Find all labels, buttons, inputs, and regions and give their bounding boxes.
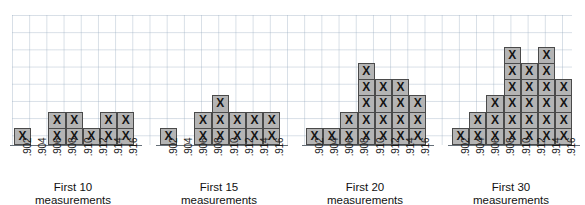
panel-caption-line1: First 15 bbox=[146, 181, 292, 194]
dotplot-panel: XXXXXXXXXX.902.904.906.908.910.912.914.9… bbox=[0, 0, 146, 205]
dotplot-mark-cell: X bbox=[212, 95, 229, 112]
dotplot-mark-cell: X bbox=[358, 112, 375, 129]
panel-caption-line2: measurements bbox=[292, 194, 438, 205]
dotplot-mark-cell: X bbox=[521, 63, 538, 80]
dotplot-mark-cell: X bbox=[194, 112, 211, 129]
dotplot-mark-cell: X bbox=[246, 112, 263, 129]
x-axis-tick-label: .916 bbox=[128, 138, 139, 157]
dotplot-mark-cell: X bbox=[229, 112, 246, 129]
panel-caption-line2: measurements bbox=[146, 194, 292, 205]
dotplot-mark-cell: X bbox=[469, 112, 486, 129]
dotplot-mark-cell: X bbox=[555, 112, 572, 129]
dotplot-column: XXXXXX bbox=[504, 48, 521, 145]
dotplot-column: XXXX bbox=[375, 80, 392, 145]
panel-caption: First 30measurements bbox=[438, 181, 584, 205]
dotplot-mark-cell: X bbox=[486, 95, 503, 112]
dotplot-mark-cell: X bbox=[100, 112, 117, 129]
dotplot-mark-cell: X bbox=[375, 112, 392, 129]
dotplot-column: XXXX bbox=[392, 80, 409, 145]
panel-caption-line1: First 10 bbox=[0, 181, 146, 194]
panel-caption: First 20measurements bbox=[292, 181, 438, 205]
x-axis-tick-label: .916 bbox=[420, 138, 431, 157]
dotplot-stack-area: XXXXXXXXXXXX bbox=[160, 23, 282, 145]
dotplot-mark-cell: X bbox=[375, 79, 392, 96]
dotplot-mark-cell: X bbox=[117, 112, 134, 129]
dotplot-mark-cell: X bbox=[504, 47, 521, 64]
panel-caption-line1: First 30 bbox=[438, 181, 584, 194]
dotplot-stack-area: XXXXXXXXXX bbox=[14, 23, 136, 145]
dotplot-panel: XXXXXXXXXXXXXXXXXXXXXXXXXXX.902.904.906.… bbox=[438, 0, 584, 205]
dotplot-mark-cell: X bbox=[409, 95, 426, 112]
panel-caption: First 10measurements bbox=[0, 181, 146, 205]
dotplot-column: XXXXX bbox=[521, 64, 538, 145]
dotplot-mark-cell: X bbox=[392, 112, 409, 129]
dotplot-mark-cell: X bbox=[392, 79, 409, 96]
dotplot-mark-cell: X bbox=[538, 63, 555, 80]
dotplot-column: XXXXXX bbox=[538, 48, 555, 145]
dotplot-column: XXXXX bbox=[358, 64, 375, 145]
dotplot-mark-cell: X bbox=[538, 112, 555, 129]
dotplot-mark-cell: X bbox=[486, 112, 503, 129]
x-axis-tick-label: .916 bbox=[274, 138, 285, 157]
dotplot-mark-cell: X bbox=[263, 112, 280, 129]
dotplot-mark-cell: X bbox=[212, 112, 229, 129]
dotplot-stack-area: XXXXXXXXXXXXXXXXXXXXXXXXXXX bbox=[452, 23, 574, 145]
dotplot-panel-group: XXXXXXXXXX.902.904.906.908.910.912.914.9… bbox=[0, 0, 585, 205]
panel-caption-line2: measurements bbox=[438, 194, 584, 205]
panel-caption-line2: measurements bbox=[0, 194, 146, 205]
dotplot-mark-cell: X bbox=[538, 79, 555, 96]
dotplot-mark-cell: X bbox=[504, 79, 521, 96]
dotplot-mark-cell: X bbox=[504, 95, 521, 112]
dotplot-panel: XXXXXXXXXXXX.902.904.906.908.910.912.914… bbox=[146, 0, 292, 205]
dotplot-column: XXXX bbox=[555, 80, 572, 145]
dotplot-mark-cell: X bbox=[409, 112, 426, 129]
dotplot-mark-cell: X bbox=[66, 112, 83, 129]
dotplot-mark-cell: X bbox=[375, 95, 392, 112]
dotplot-mark-cell: X bbox=[538, 95, 555, 112]
dotplot-mark-cell: X bbox=[504, 63, 521, 80]
dotplot-stack-area: XXXXXXXXXXXXXXXXXXXX bbox=[306, 23, 428, 145]
dotplot-mark-cell: X bbox=[48, 112, 65, 129]
dotplot-mark-cell: X bbox=[521, 79, 538, 96]
dotplot-mark-cell: X bbox=[340, 112, 357, 129]
dotplot-mark-cell: X bbox=[358, 95, 375, 112]
dotplot-mark-cell: X bbox=[538, 47, 555, 64]
dotplot-mark-cell: X bbox=[521, 95, 538, 112]
dotplot-mark-cell: X bbox=[521, 112, 538, 129]
panel-caption-line1: First 20 bbox=[292, 181, 438, 194]
dotplot-mark-cell: X bbox=[392, 95, 409, 112]
dotplot-mark-cell: X bbox=[358, 79, 375, 96]
dotplot-mark-cell: X bbox=[358, 63, 375, 80]
dotplot-panel: XXXXXXXXXXXXXXXXXXXX.902.904.906.908.910… bbox=[292, 0, 438, 205]
dotplot-mark-cell: X bbox=[555, 79, 572, 96]
dotplot-mark-cell: X bbox=[504, 112, 521, 129]
x-axis-tick-label: .916 bbox=[566, 138, 577, 157]
panel-caption: First 15measurements bbox=[146, 181, 292, 205]
dotplot-mark-cell: X bbox=[555, 95, 572, 112]
